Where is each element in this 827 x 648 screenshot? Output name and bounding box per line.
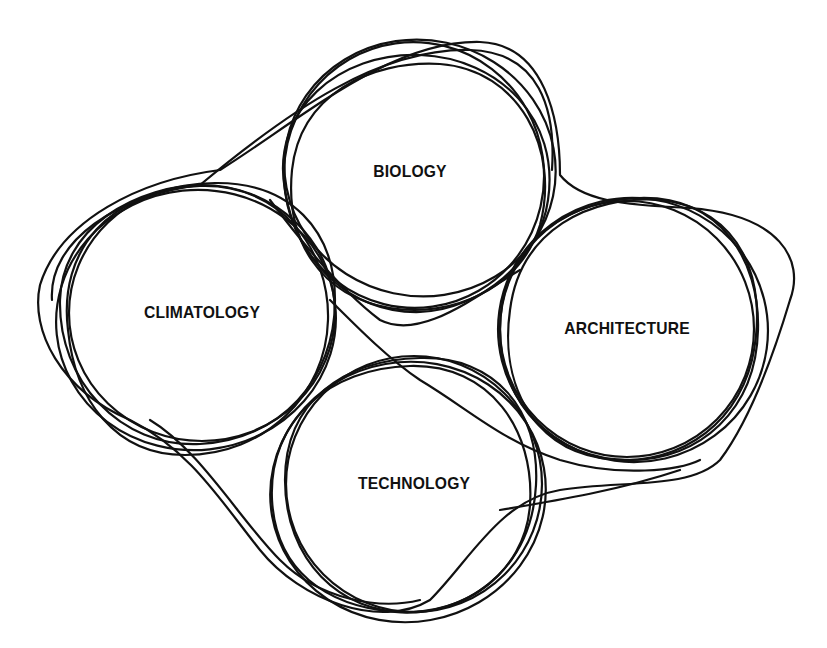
biology-label: BIOLOGY [373,162,446,182]
climatology-label: CLIMATOLOGY [144,303,260,323]
diagram-canvas [0,0,827,648]
technology-label: TECHNOLOGY [358,474,470,494]
architecture-label: ARCHITECTURE [564,319,690,339]
